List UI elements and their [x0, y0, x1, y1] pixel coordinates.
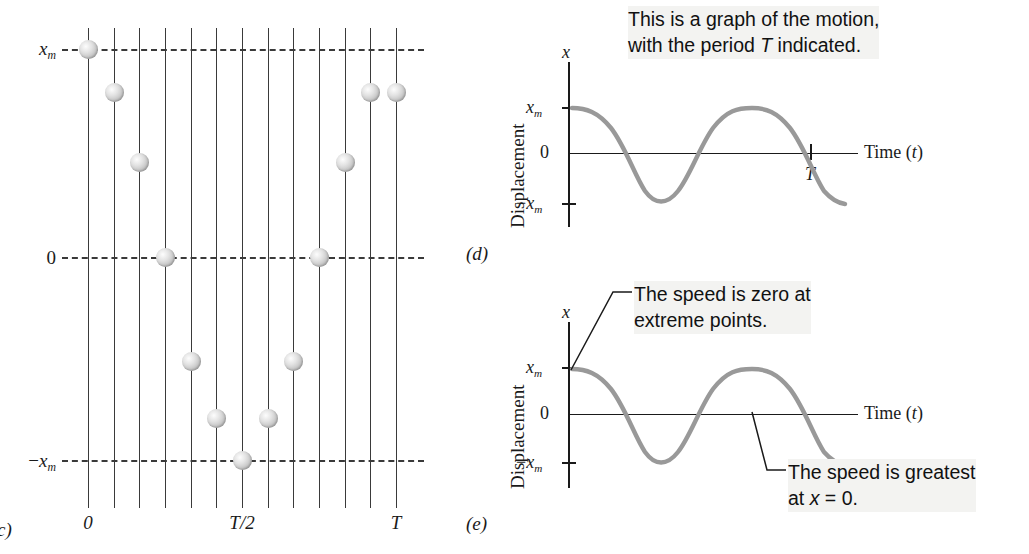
panel-e-graph: x xm 0 −xm Time (t) Displacement The spe…: [0, 0, 1029, 554]
callout-speed-greatest: The speed is greatest at x = 0.: [788, 459, 976, 512]
callout-speed-greatest-line2: at x = 0.: [788, 485, 976, 511]
panel-e-cosine-curve: [572, 369, 845, 465]
callout-speed-greatest-line1: The speed is greatest: [788, 459, 976, 485]
callout-speed-zero-line1: The speed is zero at: [634, 281, 811, 307]
panel-e-letter: (e): [466, 513, 487, 535]
callout-speed-zero: The speed is zero at extreme points.: [634, 281, 811, 334]
physics-figure-shm: xm 0 −xm 0 T/2 T c) This is a graph of t…: [0, 0, 1029, 554]
callout-bottom-leader-line: [752, 412, 786, 470]
callout-top-leader-line: [571, 292, 632, 370]
callout-speed-zero-line2: extreme points.: [634, 307, 811, 333]
